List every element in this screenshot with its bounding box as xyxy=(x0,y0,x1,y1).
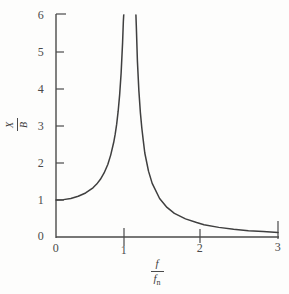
x-axis-label-denominator-subscript: n xyxy=(157,278,161,287)
figure-container: 6 5 4 3 2 1 0 0 1 2 3 X B f fn xyxy=(0,0,289,294)
y-axis-label-numerator: X xyxy=(5,119,16,131)
y-axis-label-fraction: X B xyxy=(5,119,29,132)
y-tick-label-4: 4 xyxy=(26,82,44,97)
x-axis-label-denominator: fn xyxy=(151,273,162,288)
x-axis-label-fraction-bar xyxy=(151,271,164,272)
curve-right-branch xyxy=(136,15,278,232)
y-tick-label-0: 0 xyxy=(26,229,44,244)
x-tick-label-1: 1 xyxy=(115,243,133,258)
x-tick-label-2: 2 xyxy=(191,241,209,256)
curve-left-branch xyxy=(56,15,124,200)
y-tick-label-5: 5 xyxy=(26,45,44,60)
x-tick-label-0: 0 xyxy=(47,241,65,256)
y-axis-label-denominator: B xyxy=(19,120,30,130)
x-axis-label-numerator: f xyxy=(152,258,161,270)
y-axis-label: X B xyxy=(2,110,32,140)
y-tick-label-2: 2 xyxy=(26,156,44,171)
x-axis-label: f fn xyxy=(137,258,177,287)
y-axis-ticks xyxy=(56,14,66,200)
x-tick-label-3: 3 xyxy=(269,240,287,255)
y-tick-label-1: 1 xyxy=(26,193,44,208)
y-tick-label-6: 6 xyxy=(26,8,44,23)
x-axis-label-fraction: f fn xyxy=(151,258,164,287)
